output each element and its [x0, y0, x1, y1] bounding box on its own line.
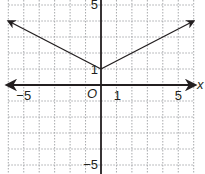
- origin-label: O: [87, 86, 97, 101]
- axes: [7, 0, 195, 174]
- coordinate-plane: −51551−5Ox: [0, 0, 205, 174]
- x-tick-label: 5: [175, 88, 182, 103]
- x-tick-label: 1: [114, 88, 121, 103]
- y-tick-label: 1: [91, 62, 98, 77]
- x-tick-label: −5: [16, 88, 31, 103]
- y-tick-label: −5: [83, 157, 98, 172]
- axis-labels: −51551−5Ox: [16, 0, 204, 172]
- x-axis-label: x: [196, 77, 204, 92]
- y-tick-label: 5: [91, 0, 98, 12]
